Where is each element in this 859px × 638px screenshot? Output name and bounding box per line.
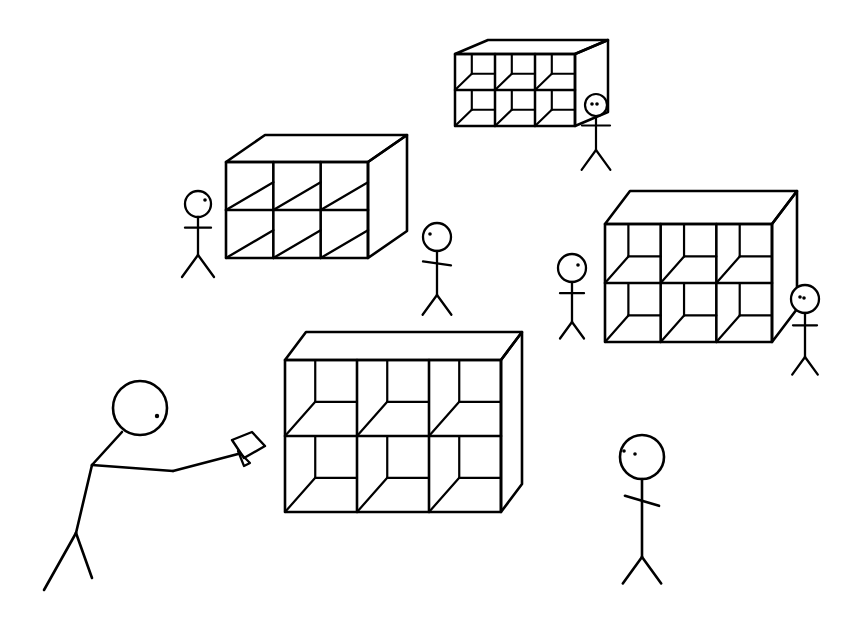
figure-eye — [622, 449, 626, 453]
shelf-cubby — [716, 283, 772, 342]
shelf-cubby — [226, 230, 273, 258]
shelf-top-small — [455, 40, 608, 126]
cubby-floor-edge — [455, 110, 472, 126]
figure-neck — [92, 432, 122, 465]
cubby-floor-edge — [535, 74, 552, 90]
cubby-floor-edge — [605, 256, 628, 283]
figure-leg-left — [182, 255, 198, 277]
figure-eye — [428, 232, 432, 236]
figure-foreground-right — [620, 435, 664, 583]
cubby-floor-edge — [535, 110, 552, 126]
cubby-floor-edge — [605, 315, 628, 342]
shelf-top-face — [285, 332, 522, 360]
shelf-cubby — [605, 283, 661, 342]
figure-leg-left — [792, 357, 805, 375]
figure-leg-left — [423, 295, 437, 315]
cubby-floor-edge — [661, 315, 684, 342]
shelf-cubby — [285, 436, 357, 512]
cubby-floor-edge — [321, 182, 368, 210]
cubby-floor-edge — [357, 478, 387, 512]
figure-body — [76, 465, 92, 533]
shelf-upper-left — [226, 135, 407, 258]
cubby-floor-edge — [495, 74, 512, 90]
figure-leg-left — [623, 557, 642, 583]
card-icon — [232, 432, 265, 466]
shelf-cubby — [273, 182, 320, 210]
scene-canvas — [0, 0, 859, 638]
figure-right-far — [791, 285, 819, 375]
figure-eye — [798, 295, 802, 299]
figure-top-right-small — [582, 94, 611, 170]
shelf-cubby — [357, 436, 429, 512]
cubby-floor-edge — [455, 74, 472, 90]
shelves-layer — [226, 40, 797, 512]
figure-leg-left — [560, 322, 572, 339]
figure-head — [620, 435, 664, 479]
figure-eye — [802, 296, 806, 300]
figure-leg-right — [437, 295, 451, 315]
figure-eye — [576, 263, 580, 267]
shelf-top-face — [455, 40, 608, 54]
shelf-cubby — [605, 224, 661, 283]
cubby-floor-edge — [226, 182, 273, 210]
shelf-side-face — [368, 135, 407, 258]
figure-arm-upper — [92, 465, 173, 471]
cubby-floor-edge — [429, 478, 459, 512]
shelf-cubby — [285, 360, 357, 436]
shelf-cubby — [321, 182, 368, 210]
figure-leg-right — [596, 150, 610, 170]
figure-eye — [633, 452, 637, 456]
cubby-floor-edge — [357, 402, 387, 436]
figure-head — [185, 191, 211, 217]
hand-grip — [238, 451, 250, 466]
figure-head — [423, 223, 451, 251]
cubby-floor-edge — [273, 182, 320, 210]
shelf-cubby — [535, 54, 575, 90]
figure-right-left-of-shelf — [558, 254, 586, 339]
figure-center — [423, 223, 452, 315]
shelf-side-face — [772, 191, 797, 342]
shelf-cubby — [716, 224, 772, 283]
shelf-cubby — [321, 230, 368, 258]
cubby-floor-edge — [285, 402, 315, 436]
shelf-cubby — [429, 436, 501, 512]
figure-upper-left — [182, 191, 214, 277]
shelf-cubby — [661, 283, 717, 342]
figure-leg-right — [198, 255, 214, 277]
shelf-cubby — [535, 90, 575, 126]
figure-arm-lower — [173, 454, 238, 471]
figure-leg-right — [805, 357, 818, 375]
figure-leg-left — [582, 150, 596, 170]
cubby-floor-edge — [661, 256, 684, 283]
cubby-floor-edge — [321, 230, 368, 258]
shelf-cubby — [495, 54, 535, 90]
shelf-cubby — [226, 182, 273, 210]
shelf-cubby — [455, 54, 495, 90]
cubby-floor-edge — [273, 230, 320, 258]
cubby-floor-edge — [429, 402, 459, 436]
figure-eye — [595, 102, 599, 106]
shelf-top-face — [605, 191, 797, 224]
cubby-floor-edge — [716, 315, 739, 342]
figure-leg-right — [572, 322, 584, 339]
shelf-cubby — [273, 230, 320, 258]
figure-leg-right — [76, 533, 92, 578]
shelf-cubby — [357, 360, 429, 436]
shelf-cubby — [495, 90, 535, 126]
figure-eye — [203, 198, 207, 202]
figure-eye — [155, 414, 159, 418]
cubby-floor-edge — [495, 110, 512, 126]
cubby-floor-edge — [285, 478, 315, 512]
shelf-side-face — [501, 332, 522, 512]
figure-head — [558, 254, 586, 282]
figure-leg-left — [44, 533, 76, 590]
figure-head — [113, 381, 167, 435]
shelf-top-face — [226, 135, 407, 162]
shelf-right — [605, 191, 797, 342]
shelf-cubby — [455, 90, 495, 126]
shelf-cubby — [661, 224, 717, 283]
figure-leg-right — [642, 557, 661, 583]
cubby-floor-edge — [226, 230, 273, 258]
shelf-center-large — [285, 332, 522, 512]
figure-foreground-left — [44, 381, 265, 590]
